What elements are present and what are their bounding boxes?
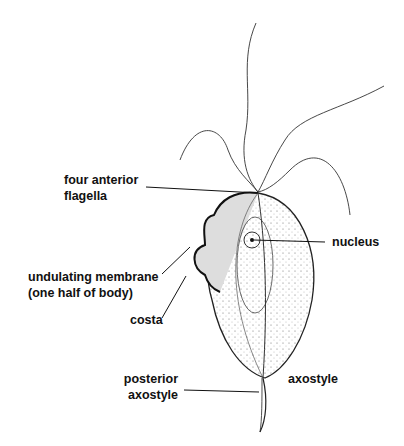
label-text: nucleus [332, 234, 379, 250]
protozoan-illustration [0, 0, 404, 446]
label-line-2: flagella [64, 188, 138, 204]
label-posterior-axostyle: posterior axostyle [118, 371, 178, 403]
cell-body [194, 192, 313, 432]
label-nucleus: nucleus [332, 234, 379, 250]
flagella [180, 23, 384, 215]
label-costa: costa [130, 312, 163, 328]
label-axostyle: axostyle [288, 371, 338, 387]
label-line-1: undulating membrane [28, 269, 159, 285]
label-line-2: (one half of body) [28, 285, 159, 301]
label-line-2: axostyle [118, 387, 178, 403]
label-text: axostyle [288, 371, 338, 387]
label-text: costa [130, 312, 163, 328]
label-undulating-membrane: undulating membrane (one half of body) [28, 269, 159, 301]
label-line-1: posterior [118, 371, 178, 387]
label-line-1: four anterior [64, 172, 138, 188]
label-four-anterior-flagella: four anterior flagella [64, 172, 138, 204]
